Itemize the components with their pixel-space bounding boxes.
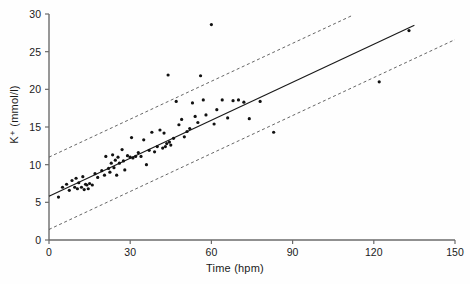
data-point (259, 100, 262, 103)
data-point (126, 154, 129, 157)
data-point (194, 115, 197, 118)
data-points-group (57, 23, 411, 199)
data-point (188, 127, 191, 130)
data-point (65, 183, 68, 186)
tick-labels-group: 0306090120150051015202530 (29, 8, 464, 258)
data-point (103, 174, 106, 177)
data-point (150, 131, 153, 134)
data-point (164, 145, 167, 148)
data-point (108, 171, 111, 174)
data-point (61, 186, 64, 189)
data-point (73, 186, 76, 189)
x-axis-label: Time (hpm) (0, 262, 470, 274)
data-point (378, 80, 381, 83)
data-point (81, 175, 84, 178)
data-point (242, 101, 245, 104)
prediction-limit-line (49, 16, 352, 158)
data-point (100, 169, 103, 172)
data-point (85, 183, 88, 186)
data-point (104, 155, 107, 158)
data-point (68, 189, 71, 192)
data-point (191, 101, 194, 104)
x-tick-label: 120 (365, 246, 383, 258)
regression-line (49, 25, 414, 196)
x-tick-label: 90 (287, 246, 299, 258)
y-tick-label: 20 (29, 83, 41, 95)
data-point (116, 156, 119, 159)
data-point (180, 118, 183, 121)
data-point (199, 74, 202, 77)
y-tick-label: 25 (29, 46, 41, 58)
data-point (142, 138, 145, 141)
axes-group (45, 14, 455, 244)
data-point (111, 153, 114, 156)
data-point (114, 159, 117, 162)
x-tick-label: 0 (46, 246, 52, 258)
data-point (204, 113, 207, 116)
data-point (237, 98, 240, 101)
data-point (74, 177, 77, 180)
data-point (130, 136, 133, 139)
data-point (87, 187, 90, 190)
data-point (231, 99, 234, 102)
data-point (134, 155, 137, 158)
data-point (183, 135, 186, 138)
data-point (196, 121, 199, 124)
x-tick-label: 30 (124, 246, 136, 258)
data-point (210, 23, 213, 26)
y-axis-label: K⁺ (mmol/l) (8, 55, 21, 175)
y-tick-label: 10 (29, 159, 41, 171)
data-point (96, 176, 99, 179)
y-tick-label: 0 (35, 234, 41, 246)
y-tick-label: 30 (29, 8, 41, 20)
data-point (80, 186, 83, 189)
data-point (145, 163, 148, 166)
prediction-band-group (49, 16, 455, 230)
data-point (168, 140, 171, 143)
data-point (131, 156, 134, 159)
data-point (76, 187, 79, 190)
y-tick-label: 5 (35, 196, 41, 208)
data-point (185, 130, 188, 133)
data-point (215, 108, 218, 111)
x-tick-label: 60 (206, 246, 218, 258)
data-point (139, 155, 142, 158)
data-point (57, 195, 60, 198)
data-point (93, 172, 96, 175)
data-point (148, 149, 151, 152)
data-point (162, 131, 165, 134)
data-point (156, 145, 159, 148)
data-point (153, 150, 156, 153)
data-point (115, 174, 118, 177)
data-point (166, 73, 169, 76)
data-point (120, 148, 123, 151)
data-point (122, 159, 125, 162)
data-point (137, 151, 140, 154)
data-point (123, 168, 126, 171)
data-point (158, 128, 161, 131)
data-point (118, 162, 121, 165)
data-point (407, 29, 410, 32)
data-point (110, 162, 113, 165)
data-point (177, 123, 180, 126)
data-point (272, 131, 275, 134)
plot-canvas: 0306090120150051015202530 (0, 0, 470, 284)
data-point (213, 122, 216, 125)
data-point (77, 181, 80, 184)
prediction-limit-line (49, 40, 455, 230)
regression-line-group (49, 25, 414, 196)
data-point (221, 98, 224, 101)
data-point (112, 166, 115, 169)
data-point (172, 137, 175, 140)
scatter-plot-figure: 0306090120150051015202530 Time (hpm) K⁺ … (0, 0, 470, 284)
data-point (202, 98, 205, 101)
data-point (70, 179, 73, 182)
y-tick-label: 15 (29, 121, 41, 133)
data-point (129, 156, 132, 159)
x-tick-label: 150 (446, 246, 464, 258)
data-point (248, 117, 251, 120)
data-point (175, 100, 178, 103)
data-point (165, 142, 168, 145)
data-point (83, 188, 86, 191)
data-point (169, 143, 172, 146)
